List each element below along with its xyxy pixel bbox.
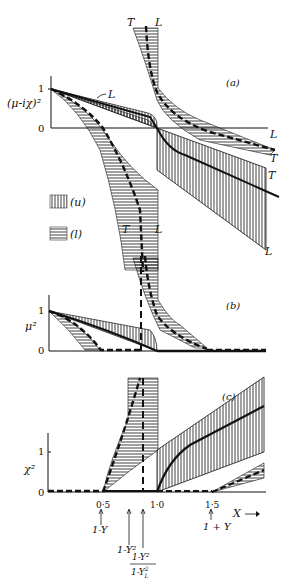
annotation-fraction: 1-Y² 1-Y2L <box>130 552 156 579</box>
xlabel: X <box>232 507 242 520</box>
panel-a-label: (a) <box>226 77 240 88</box>
label-L-curve: L <box>107 88 115 101</box>
panel-b-label: (b) <box>226 300 240 311</box>
label-T-top: T <box>127 16 136 29</box>
legend-u-label: (u) <box>70 196 86 209</box>
panel-c: (c) 1 0 χ² 0·5 1·0 1·5 X 1-Y 1-Y² 1 + Y … <box>23 377 266 579</box>
tick-one-b: 1 <box>38 305 44 316</box>
tick-zero-b: 0 <box>38 345 44 356</box>
label-L-right: L <box>269 128 277 141</box>
xtick-05: 0·5 <box>96 500 111 510</box>
label-L-top: L <box>154 16 162 29</box>
legend-l-swatch <box>50 227 67 240</box>
figure: T L (a) 1 0 (μ-iχ)² L L T T T L L (u) (l… <box>0 0 291 586</box>
label-T-right2: T <box>268 169 277 182</box>
panel-b: (b) 1 0 μ² <box>25 256 266 356</box>
tick-one-a: 1 <box>38 83 44 94</box>
legend: (u) (l) <box>50 195 86 241</box>
label-L-far: L <box>264 245 272 258</box>
tick-zero-c: 0 <box>38 487 44 498</box>
label-T-right1: T <box>270 152 279 165</box>
fraction-numerator: 1-Y² <box>132 552 150 562</box>
panel-a: T L (a) 1 0 (μ-iχ)² L L T T T L L <box>7 16 279 272</box>
label-L-bottom: L <box>154 223 162 236</box>
xtick-15: 1·5 <box>205 500 220 510</box>
legend-l-label: (l) <box>70 228 82 241</box>
panel-c-label: (c) <box>222 391 236 402</box>
xtick-10: 1·0 <box>150 500 165 510</box>
annotation-1-minus-Y: 1-Y <box>92 524 109 535</box>
ylabel-b: μ² <box>25 320 37 333</box>
annotation-arrows <box>99 509 213 548</box>
legend-u-swatch <box>50 195 67 208</box>
annotation-1-plus-Y: 1 + Y <box>203 521 232 532</box>
tick-zero-a: 0 <box>38 123 44 134</box>
ylabel-c: χ² <box>23 463 35 476</box>
ylabel-a: (μ-iχ)² <box>7 97 41 110</box>
tick-one-c: 1 <box>38 446 44 457</box>
fraction-denominator: 1-Y2L <box>131 565 149 579</box>
